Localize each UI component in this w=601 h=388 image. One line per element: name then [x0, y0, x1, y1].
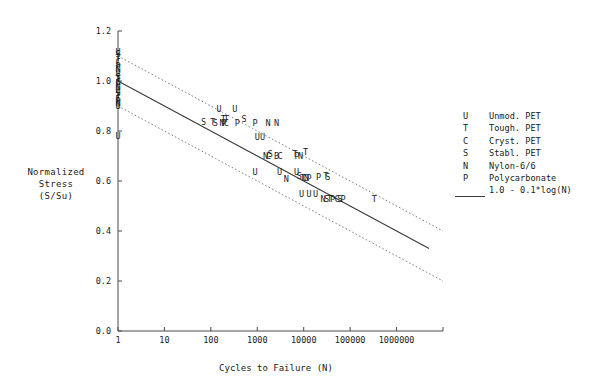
- data-point-s: S: [213, 118, 218, 128]
- legend-symbol-u: U: [463, 110, 489, 122]
- legend-item-polycarbonate: P Polycarbonate: [463, 172, 572, 184]
- y-tick-label: 0.8: [96, 126, 111, 136]
- y-axis-title: Normalized Stress (S/Su): [10, 166, 102, 202]
- data-point-s: S: [201, 117, 206, 127]
- y-tick-label: 0.2: [96, 276, 111, 286]
- data-point-p: P: [316, 172, 321, 182]
- x-tick-label: 100: [203, 335, 218, 345]
- x-tick-labels: 1101001000100001000001000000: [115, 335, 414, 345]
- axis-ticks: [118, 31, 443, 331]
- data-point-u: U: [277, 167, 282, 177]
- legend-item-unmod-pet: U Unmod. PET: [463, 110, 572, 122]
- y-tick-label: 1.2: [96, 26, 111, 36]
- data-point-p: P: [340, 194, 345, 204]
- x-tick-label: 1000000: [379, 335, 415, 345]
- data-point-p: P: [306, 173, 311, 183]
- x-tick-label: 1000: [247, 335, 267, 345]
- legend-symbol-n: N: [463, 160, 489, 172]
- data-point-t: T: [303, 147, 308, 157]
- axes: [118, 31, 443, 331]
- x-tick-label: 100000: [335, 335, 366, 345]
- y-tick-label: 0.4: [96, 226, 111, 236]
- data-point-c: C: [224, 118, 229, 128]
- data-point-u: U: [232, 104, 237, 114]
- regression-fit-line: [118, 81, 429, 249]
- data-point-s: S: [242, 114, 247, 124]
- x-tick-label: 10000: [291, 335, 317, 345]
- y-axis-title-line-2: Stress: [10, 178, 102, 190]
- x-axis-title: Cycles to Failure (N): [219, 363, 333, 373]
- data-point-t: T: [372, 194, 377, 204]
- data-point-u: U: [313, 189, 318, 199]
- data-point-s: S: [268, 149, 273, 159]
- legend-item-tough-pet: T Tough. PET: [463, 122, 572, 134]
- data-point-u: U: [306, 189, 311, 199]
- legend: U Unmod. PET T Tough. PET C Cryst. PET S…: [463, 110, 572, 197]
- legend-item-fit-line: 1.0 - 0.1*log(N): [463, 184, 572, 196]
- data-point-n: N: [265, 118, 270, 128]
- data-point-u: U: [299, 189, 304, 199]
- y-tick-label: 1.0: [96, 76, 111, 86]
- legend-label-polycarbonate: Polycarbonate: [489, 172, 556, 184]
- data-point-p: P: [235, 118, 240, 128]
- data-point-p: P: [253, 118, 258, 128]
- legend-item-cryst-pet: C Cryst. PET: [463, 135, 572, 147]
- data-point-u: U: [260, 132, 265, 142]
- data-point-n: N: [274, 118, 279, 128]
- data-point-c: C: [278, 151, 283, 161]
- y-tick-label: 0.0: [96, 326, 111, 336]
- x-tick-label: 10: [159, 335, 169, 345]
- data-point-u: U: [115, 101, 120, 111]
- data-point-u: U: [253, 167, 258, 177]
- legend-label-tough-pet: Tough. PET: [489, 122, 541, 134]
- data-point-n: N: [284, 174, 289, 184]
- legend-symbol-p: P: [463, 172, 489, 184]
- legend-symbol-c: C: [463, 135, 489, 147]
- data-point-s: S: [325, 172, 330, 182]
- legend-label-nylon: Nylon-6/6: [489, 160, 536, 172]
- data-point-u: U: [115, 131, 120, 141]
- legend-symbol-t: T: [463, 122, 489, 134]
- legend-label-stabl-pet: Stabl. PET: [489, 147, 541, 159]
- data-point-u: U: [216, 104, 221, 114]
- legend-label-cryst-pet: Cryst. PET: [489, 135, 541, 147]
- y-axis-title-line-3: (S/Su): [10, 190, 102, 202]
- x-tick-label: 1: [115, 335, 120, 345]
- legend-label-fit: 1.0 - 0.1*log(N): [489, 184, 572, 196]
- data-point-markers: USTCPNUSTCPNUSTCPNUUUUSTSTTNPCPSPNNUUNCS…: [115, 47, 376, 205]
- legend-label-unmod-pet: Unmod. PET: [489, 110, 541, 122]
- y-axis-title-line-1: Normalized: [10, 166, 102, 178]
- legend-symbol-s: S: [463, 147, 489, 159]
- chart-canvas: 1101001000100001000001000000 0.00.20.40.…: [0, 0, 601, 388]
- legend-item-nylon: N Nylon-6/6: [463, 160, 572, 172]
- legend-item-stabl-pet: S Stabl. PET: [463, 147, 572, 159]
